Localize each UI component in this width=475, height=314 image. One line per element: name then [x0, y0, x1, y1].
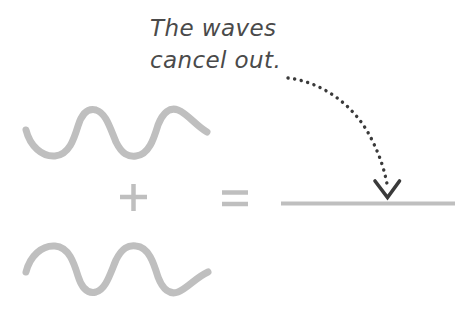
dotted-pointer-curve	[288, 78, 387, 184]
diagram-graphics	[0, 0, 475, 314]
wave-top	[26, 109, 207, 156]
plus-operator	[120, 184, 147, 211]
wave-bottom	[26, 246, 208, 293]
equals-operator	[222, 193, 248, 205]
destructive-interference-diagram: The waves cancel out.	[0, 0, 475, 314]
